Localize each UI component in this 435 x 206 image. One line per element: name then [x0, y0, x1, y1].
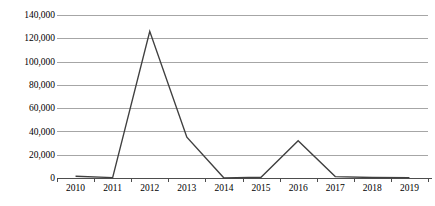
- data-series-layer: [0, 0, 435, 206]
- series-line: [76, 31, 410, 178]
- line-chart: 140,000 120,000 100,000 80,000 60,000 40…: [0, 0, 435, 206]
